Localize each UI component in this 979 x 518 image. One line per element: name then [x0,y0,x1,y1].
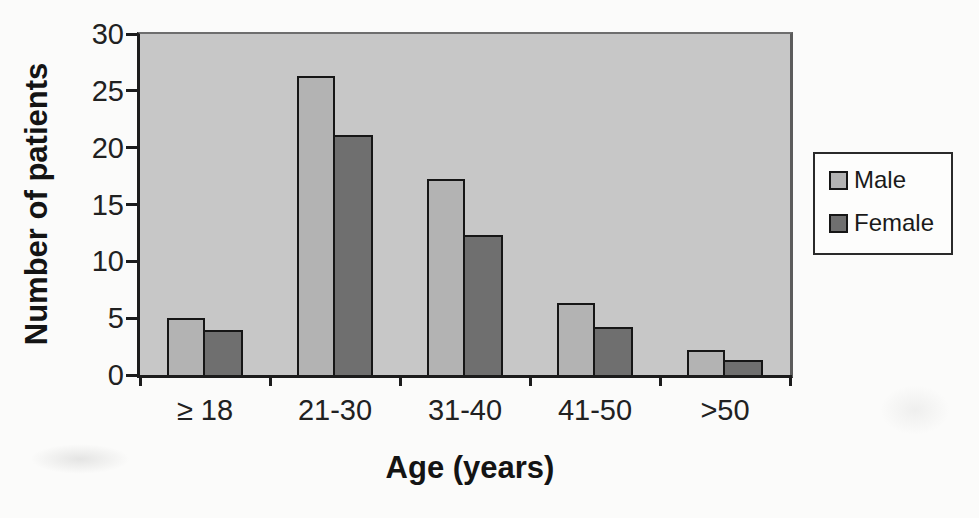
legend-label-male: Male [854,166,906,194]
x-category-label: >50 [645,393,805,427]
x-tick-mark [269,375,272,386]
bar-male-4 [687,350,725,375]
bar-male-0 [167,318,205,375]
scan-smudge [30,444,130,474]
legend-entry-male: Male [829,163,951,197]
legend-label-female: Female [854,209,934,237]
bar-female-3 [593,327,633,375]
male-series-swatch-icon [829,171,848,190]
y-tick-label: 30 [40,18,124,50]
bar-female-1 [333,135,373,375]
legend-entry-female: Female [829,206,951,240]
bar-female-0 [203,330,243,375]
bar-female-2 [463,235,503,375]
y-tick-mark [126,33,137,36]
x-tick-mark [789,375,792,386]
y-tick-label: 0 [40,359,124,391]
bar-male-1 [297,76,335,375]
y-tick-mark [126,374,137,377]
chart-figure: Number of patients 051015202530≥ 1821-30… [0,0,979,518]
y-tick-mark [126,317,137,320]
y-tick-mark [126,146,137,149]
x-tick-mark [399,375,402,386]
bar-female-4 [723,360,763,375]
y-tick-label: 20 [40,132,124,164]
bar-male-2 [427,179,465,375]
y-tick-label: 5 [40,302,124,334]
bar-male-3 [557,303,595,375]
y-tick-label: 15 [40,189,124,221]
plot-area [137,32,793,378]
x-tick-mark [659,375,662,386]
female-series-swatch-icon [829,214,848,233]
y-tick-mark [126,89,137,92]
x-tick-mark [529,375,532,386]
y-tick-label: 10 [40,245,124,277]
y-tick-label: 25 [40,75,124,107]
x-tick-mark [139,375,142,386]
x-axis-title: Age (years) [320,449,620,487]
legend: Male Female [813,152,953,255]
scan-smudge [880,385,950,435]
y-tick-mark [126,260,137,263]
y-tick-mark [126,203,137,206]
